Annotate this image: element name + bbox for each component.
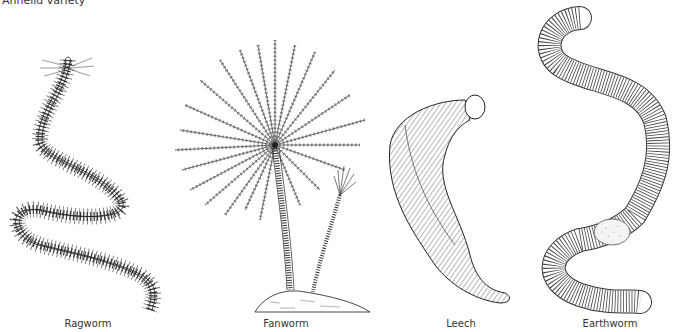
ragworm-figure: [0, 60, 180, 310]
fanworm-figure: [170, 40, 370, 315]
figure-title: Annelid variety: [2, 0, 85, 7]
caption-fanworm: Fanworm: [226, 318, 346, 329]
leech-figure: [375, 85, 525, 310]
fanworm-illustration: [170, 40, 370, 315]
ragworm-illustration: [0, 60, 180, 310]
caption-leech: Leech: [401, 318, 521, 329]
caption-ragworm: Ragworm: [28, 318, 148, 329]
earthworm-figure: [530, 10, 680, 310]
leech-illustration: [375, 85, 525, 310]
caption-earthworm: Earthworm: [550, 318, 670, 329]
earthworm-illustration: [530, 10, 680, 310]
